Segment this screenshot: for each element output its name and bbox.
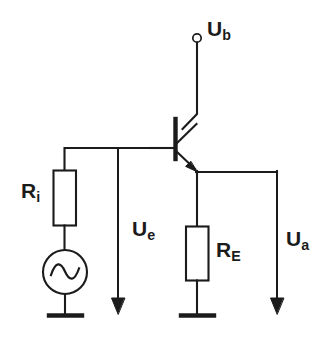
- voltage-arrow-ue-head: [112, 298, 125, 314]
- supply-terminal-circle: [193, 34, 201, 42]
- label-emitter-resistor-symbol: R: [216, 238, 231, 261]
- label-supply-subscript: b: [222, 27, 231, 43]
- label-output-voltage: Ua: [286, 228, 309, 249]
- resistor-ri-body: [54, 171, 77, 226]
- circuit-diagram-canvas: Ub Ri Ue RE Ua: [0, 0, 322, 339]
- label-output-voltage-symbol: U: [286, 227, 301, 250]
- resistor-re-body: [186, 227, 209, 281]
- base-input-wire: [65, 148, 151, 170]
- label-supply-symbol: U: [207, 17, 222, 40]
- label-input-resistor-symbol: R: [21, 179, 36, 202]
- label-emitter-resistor-subscript: E: [231, 248, 241, 264]
- label-input-voltage: Ue: [132, 218, 155, 239]
- label-output-voltage-subscript: a: [301, 237, 309, 253]
- voltage-arrow-ua-head: [271, 298, 284, 314]
- transistor-collector-lead: [176, 124, 197, 144]
- label-emitter-resistor: RE: [216, 239, 241, 260]
- label-input-voltage-symbol: U: [132, 217, 147, 240]
- schematic-drawing: [0, 0, 322, 339]
- label-supply-voltage: Ub: [207, 18, 231, 39]
- collector-supply-wire: [183, 43, 198, 130]
- label-input-voltage-subscript: e: [147, 227, 155, 243]
- label-input-resistor: Ri: [21, 180, 40, 201]
- label-input-resistor-subscript: i: [36, 189, 40, 205]
